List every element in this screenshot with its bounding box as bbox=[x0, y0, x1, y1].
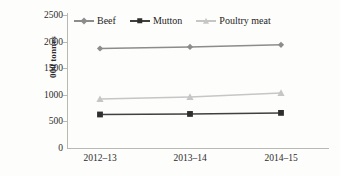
data-point-marker bbox=[187, 111, 193, 117]
data-point-marker bbox=[97, 112, 103, 118]
legend-marker-triangle-icon bbox=[196, 16, 216, 26]
legend-marker-diamond-icon bbox=[74, 16, 94, 26]
legend-label-beef: Beef bbox=[96, 15, 116, 26]
legend-marker-square-icon bbox=[130, 16, 150, 26]
data-point-marker bbox=[278, 110, 284, 116]
data-point-marker bbox=[278, 42, 284, 48]
legend-label-poultry-meat: Poultry meat bbox=[218, 15, 270, 26]
legend-item-poultry-meat[interactable]: Poultry meat bbox=[196, 15, 270, 26]
series-mutton bbox=[97, 110, 284, 117]
legend-label-mutton: Mutton bbox=[152, 15, 182, 26]
chart-legend: Beef Mutton Poultry meat bbox=[74, 15, 271, 26]
series-beef bbox=[97, 42, 284, 52]
series-poultry-meat bbox=[96, 89, 284, 102]
data-point-marker bbox=[187, 44, 193, 50]
line-chart-figure: 000 tonnes 2500 2000 1500 1000 500 0 201… bbox=[0, 0, 340, 176]
data-point-marker bbox=[97, 45, 103, 51]
legend-item-beef[interactable]: Beef bbox=[74, 15, 116, 26]
series-plot-area bbox=[0, 0, 340, 176]
legend-item-mutton[interactable]: Mutton bbox=[130, 15, 182, 26]
